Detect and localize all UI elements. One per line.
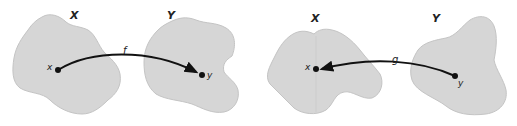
function-mapping-diagram: X Y f x y X Y g x y (0, 0, 517, 126)
set-y-label: Y (167, 9, 176, 22)
point-x-dot (313, 66, 319, 72)
diagram-f: X Y f x y (13, 9, 238, 114)
point-x-label: x (46, 62, 53, 72)
set-y-label: Y (432, 12, 441, 25)
function-g-label: g (392, 54, 398, 65)
point-y-label: y (206, 70, 213, 80)
point-x-label: x (304, 62, 311, 72)
set-x-blob (267, 29, 381, 113)
point-y-label: y (457, 78, 464, 88)
set-y-blob (144, 18, 238, 113)
point-x-dot (55, 67, 61, 73)
diagram-g: X Y g x y (267, 12, 506, 115)
set-x-label: X (69, 9, 79, 22)
set-x-label: X (310, 12, 320, 25)
point-y-dot (199, 72, 205, 78)
